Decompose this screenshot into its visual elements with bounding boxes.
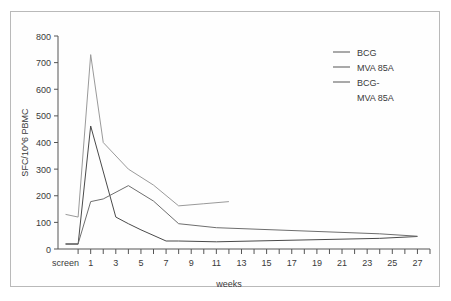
x-tick-label: screen: [52, 258, 79, 268]
y-tick-label: 100: [36, 218, 51, 228]
x-tick-label: 19: [312, 258, 322, 268]
y-tick-label: 300: [36, 165, 51, 175]
y-tick-label: 0: [46, 245, 51, 255]
series-line-mva-85a: [66, 186, 418, 244]
x-tick-label: 9: [189, 258, 194, 268]
legend-label-1: MVA 85A: [357, 63, 394, 73]
x-axis-title: weeks: [215, 279, 242, 289]
legend-label-0: BCG: [357, 48, 377, 58]
x-tick-label: 5: [138, 258, 143, 268]
x-tick-label: 1: [88, 258, 93, 268]
x-tick-label: 23: [362, 258, 372, 268]
x-tick-label: 21: [337, 258, 347, 268]
series-line-bcg: [66, 126, 418, 244]
x-tick-label: 11: [212, 258, 221, 268]
y-tick-label: 800: [36, 32, 51, 42]
x-tick-label: 3: [113, 258, 118, 268]
line-chart: 0100200300400500600700800screen135791113…: [0, 0, 451, 301]
x-tick-label: 17: [287, 258, 297, 268]
x-tick-label: 13: [236, 258, 246, 268]
legend-label-2: BCG-: [357, 78, 380, 88]
y-tick-label: 200: [36, 191, 51, 201]
x-tick-label: 7: [164, 258, 169, 268]
x-tick-label: 15: [262, 258, 272, 268]
x-tick-label: 25: [387, 258, 397, 268]
y-tick-label: 400: [36, 138, 51, 148]
chart-svg: 0100200300400500600700800screen135791113…: [0, 0, 451, 301]
y-tick-label: 600: [36, 85, 51, 95]
y-axis-title: SFC/10^6 PBMC: [20, 108, 30, 177]
x-tick-label: 27: [412, 258, 422, 268]
y-tick-label: 700: [36, 58, 51, 68]
y-tick-label: 500: [36, 111, 51, 121]
legend-label-3: MVA 85A: [357, 93, 394, 103]
